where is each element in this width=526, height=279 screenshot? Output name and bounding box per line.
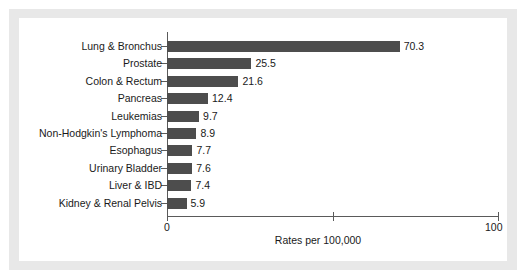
bar-value-label: 7.4 <box>195 178 210 193</box>
bar-value-label: 7.6 <box>196 161 211 176</box>
bar-value-label: 25.5 <box>255 56 275 71</box>
bar-value-label: 9.7 <box>203 109 218 124</box>
category-label: Lung & Bronchus <box>81 39 162 54</box>
x-axis-title-text: Rates per 100,000 <box>275 234 361 246</box>
bar <box>167 76 238 87</box>
bar <box>167 163 192 174</box>
category-label: Esophagus <box>109 143 162 158</box>
bar <box>167 41 400 52</box>
bar-value-label: 8.9 <box>200 126 215 141</box>
bar-row: Esophagus7.7 <box>0 142 526 159</box>
bar <box>167 58 251 69</box>
x-axis-title: Rates per 100,000 <box>0 234 526 246</box>
x-axis-tick-label: 100 <box>485 221 503 233</box>
category-label: Kidney & Renal Pelvis <box>59 196 162 211</box>
bar-row: Non-Hodgkin's Lymphoma8.9 <box>0 125 526 142</box>
bar-row: Pancreas12.4 <box>0 90 526 107</box>
category-label: Non-Hodgkin's Lymphoma <box>39 126 162 141</box>
bar-row: Kidney & Renal Pelvis5.9 <box>0 195 526 212</box>
category-label: Prostate <box>123 56 162 71</box>
bar-value-label: 5.9 <box>191 196 206 211</box>
bar <box>167 145 192 156</box>
bar <box>167 111 199 122</box>
bar-row: Colon & Rectum21.6 <box>0 73 526 90</box>
category-label: Pancreas <box>118 91 162 106</box>
category-label: Liver & IBD <box>109 178 162 193</box>
bar-row: Leukemias9.7 <box>0 108 526 125</box>
bar-row: Liver & IBD7.4 <box>0 177 526 194</box>
category-label: Leukemias <box>111 109 162 124</box>
bar-row: Urinary Bladder7.6 <box>0 160 526 177</box>
bar-row: Prostate25.5 <box>0 55 526 72</box>
category-label: Colon & Rectum <box>86 74 162 89</box>
bar-value-label: 7.7 <box>196 143 211 158</box>
x-axis-tick-mark <box>498 212 499 221</box>
x-axis-tick-mark <box>167 212 168 221</box>
x-axis-tick-label: 0 <box>164 221 170 233</box>
bar <box>167 180 191 191</box>
category-label: Urinary Bladder <box>89 161 162 176</box>
bar <box>167 198 187 209</box>
bar-row: Lung & Bronchus70.3 <box>0 38 526 55</box>
bar-value-label: 12.4 <box>212 91 232 106</box>
bar-value-label: 70.3 <box>404 39 424 54</box>
bar-value-label: 21.6 <box>242 74 262 89</box>
bar <box>167 128 196 139</box>
x-axis-tick-mark <box>333 212 334 221</box>
figure-root: Lung & Bronchus70.3Prostate25.5Colon & R… <box>0 0 526 279</box>
bar <box>167 93 208 104</box>
